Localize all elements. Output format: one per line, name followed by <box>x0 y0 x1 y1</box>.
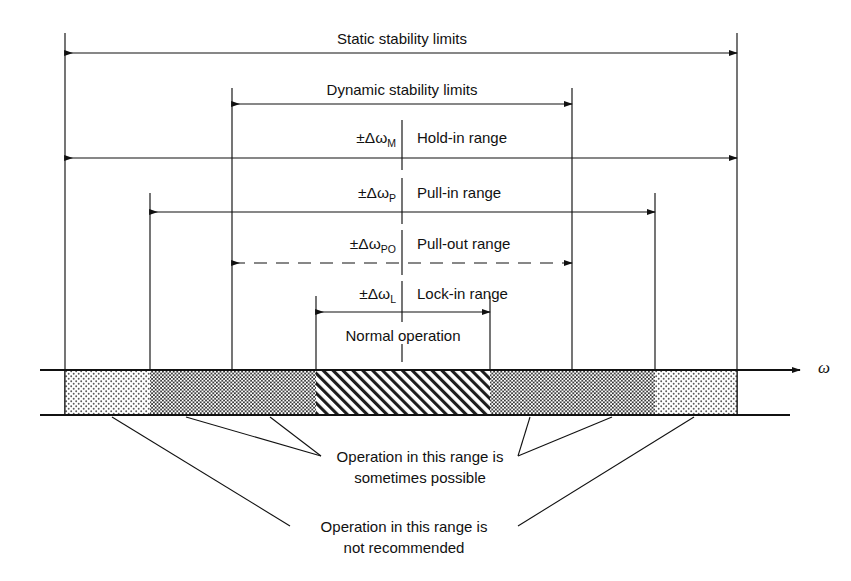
band-segment-sometimes-left-outer <box>150 370 232 415</box>
band-segment-not-recommended-right <box>655 370 737 415</box>
lock-in-symbol: ±ΔωL <box>359 286 396 305</box>
static-stability-title: Static stability limits <box>337 31 467 46</box>
pull-in-symbol: ±ΔωP <box>358 185 396 204</box>
normal-operation-label: Normal operation <box>345 328 460 343</box>
leader-not-recommended-right <box>518 417 694 526</box>
leader-sometimes-left-1 <box>186 417 321 456</box>
leader-sometimes-right-2 <box>518 417 612 456</box>
pull-out-symbol: ±ΔωPO <box>350 236 396 255</box>
omega-axis-label: ω <box>818 358 830 378</box>
dynamic-stability-title: Dynamic stability limits <box>327 82 478 97</box>
band-segment-normal-left <box>316 370 402 415</box>
pull-out-range-label: Pull-out range <box>417 236 510 251</box>
band-segment-not-recommended-left <box>65 370 150 415</box>
band-segment-normal-right <box>402 370 490 415</box>
leader-not-recommended-left <box>112 417 290 526</box>
pull-in-range-label: Pull-in range <box>417 185 501 200</box>
stability-limits-diagram: Static stability limits Dynamic stabilit… <box>0 0 851 581</box>
callout-not-recommended-line1: Operation in this range is <box>321 519 488 534</box>
band-segment-sometimes-right-inner <box>490 370 572 415</box>
callout-sometimes-possible-line2: sometimes possible <box>354 470 486 485</box>
band-segment-sometimes-left-inner <box>232 370 316 415</box>
callout-not-recommended-line2: not recommended <box>344 540 465 555</box>
lock-in-range-label: Lock-in range <box>417 286 508 301</box>
hold-in-range-label: Hold-in range <box>417 130 507 145</box>
leader-sometimes-right-1 <box>518 417 530 456</box>
frequency-band <box>65 370 737 415</box>
callout-sometimes-possible-line1: Operation in this range is <box>337 449 504 464</box>
leader-sometimes-left-2 <box>270 417 321 456</box>
hold-in-symbol: ±ΔωM <box>356 130 396 149</box>
band-segment-sometimes-right-outer <box>572 370 655 415</box>
